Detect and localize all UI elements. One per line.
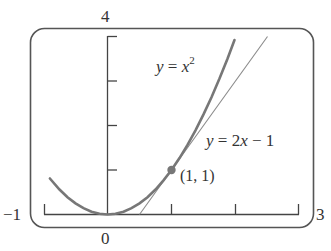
x-axis [44,204,299,215]
x-max-label: 3 [316,205,325,224]
point-label: (1, 1) [180,167,215,185]
x-min-label: −1 [3,205,21,224]
parabola-label-exponent: 2 [189,54,195,66]
parabola-y-equals-x-squared [50,40,235,215]
parabola-equation-label: y = x2 [154,54,195,76]
y-max-label: 4 [101,7,110,26]
tangent-label-rest: − 1 [248,131,275,150]
tangent-point-marker [167,166,175,174]
tangent-label-y: y [204,131,214,150]
graph-figure: 4 −1 3 0 y = x2 y = 2x − 1 (1, 1) [0,0,331,251]
tangent-equation-label: y = 2x − 1 [204,131,274,150]
tangent-label-equals: = 2 [214,131,241,150]
parabola-label-equals: = [164,57,182,76]
x-zero-label: 0 [101,229,110,248]
parabola-label-y: y [154,57,164,76]
y-axis [108,36,118,214]
